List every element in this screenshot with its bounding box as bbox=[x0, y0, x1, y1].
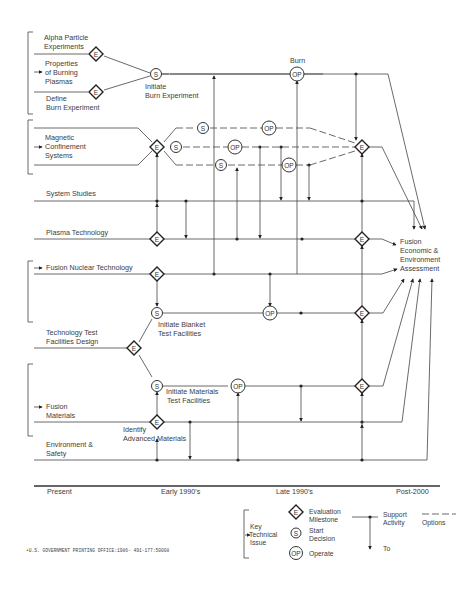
svg-text:E: E bbox=[155, 144, 160, 151]
svg-text:E: E bbox=[360, 144, 365, 151]
svg-text:OP: OP bbox=[264, 125, 273, 132]
timeline: Present Early 1990's Late 1990's Post-20… bbox=[34, 486, 440, 496]
start-decision-magnetic-upper: S bbox=[198, 123, 209, 134]
bracket-fusion-materials bbox=[28, 364, 42, 436]
svg-text:S: S bbox=[294, 530, 299, 537]
operate-blanket: OP bbox=[263, 306, 277, 320]
blanket-test-lines bbox=[163, 279, 404, 313]
svg-text:E: E bbox=[360, 383, 365, 390]
legend-support-activity-icon bbox=[352, 515, 378, 549]
track-label-ttf-1: Technology Test bbox=[46, 328, 97, 337]
svg-text:OP: OP bbox=[230, 144, 239, 151]
evaluation-milestone-fusion-nuclear: E bbox=[150, 267, 164, 281]
operate-magnetic-upper: OP bbox=[262, 121, 276, 135]
annotation-initiate-blanket-1: Initiate Blanket bbox=[158, 320, 205, 329]
bracket-fusion-nuclear bbox=[28, 261, 42, 322]
svg-text:OP: OP bbox=[284, 162, 293, 169]
operate-burn: OP bbox=[290, 67, 304, 81]
annotation-burn: Burn bbox=[290, 56, 305, 65]
legend-start-1: Start bbox=[309, 527, 323, 534]
track-label-burning-3: Plasmas bbox=[45, 77, 73, 86]
legend-key-3: Issue bbox=[250, 539, 266, 546]
legend-start-2: Decision bbox=[309, 535, 335, 542]
svg-text:OP: OP bbox=[265, 310, 274, 317]
track-label-env-2: Safety bbox=[46, 449, 67, 458]
legend-evaluation-milestone-icon: E bbox=[289, 505, 303, 519]
evaluation-milestone-ttf: E bbox=[127, 341, 141, 355]
legend-support-1: Support bbox=[383, 511, 407, 519]
annotation-fusion-assessment-2: Economic & bbox=[400, 246, 439, 255]
timeline-post-2000: Post-2000 bbox=[396, 487, 429, 496]
annotation-identify-1: Identify bbox=[123, 425, 147, 434]
svg-text:E: E bbox=[360, 236, 365, 243]
track-label-system-studies: System Studies bbox=[46, 189, 96, 198]
svg-text:S: S bbox=[155, 383, 160, 390]
svg-text:S: S bbox=[174, 144, 179, 151]
annotation-fusion-assessment-1: Fusion bbox=[400, 237, 422, 246]
legend-key-2: Technical bbox=[249, 531, 278, 538]
evaluation-milestone-fusion-materials: E bbox=[150, 415, 164, 429]
track-label-magnetic-3: Systems bbox=[45, 151, 73, 160]
svg-text:E: E bbox=[155, 236, 160, 243]
legend-operate-icon: OP bbox=[290, 547, 303, 560]
svg-text:E: E bbox=[132, 345, 137, 352]
svg-text:OP: OP bbox=[233, 383, 242, 390]
timeline-late-1990s: Late 1990's bbox=[276, 487, 313, 496]
legend-evaluation-1: Evaluation bbox=[309, 508, 341, 515]
evaluation-milestone-alpha: E bbox=[89, 47, 103, 61]
svg-text:E: E bbox=[155, 271, 160, 278]
track-label-alpha-2: Experiments bbox=[44, 42, 84, 51]
svg-text:OP: OP bbox=[291, 550, 300, 557]
start-decision-blanket: S bbox=[152, 308, 163, 319]
legend-operate: Operate bbox=[309, 550, 334, 558]
footer-printing-office: •U.S. GOVERNMENT PRINTING OFFICE:1986- 4… bbox=[26, 548, 170, 553]
system-studies-lines bbox=[34, 201, 414, 229]
bracket-burning-plasmas bbox=[28, 32, 42, 114]
start-decision-magnetic-middle: S bbox=[171, 142, 182, 153]
start-decision-magnetic-lower: S bbox=[216, 160, 227, 171]
env-safety-lines bbox=[34, 279, 432, 460]
svg-text:S: S bbox=[155, 310, 160, 317]
track-label-env-1: Environment & bbox=[46, 440, 93, 449]
legend-to: To bbox=[383, 545, 390, 552]
svg-text:S: S bbox=[201, 125, 206, 132]
legend-key-1: Key bbox=[250, 523, 262, 531]
track-label-ttf-2: Facilities Design bbox=[46, 337, 98, 346]
svg-text:E: E bbox=[94, 89, 99, 96]
evaluation-milestone-late-materials: E bbox=[355, 379, 369, 393]
legend-options: Options bbox=[422, 519, 446, 527]
burning-plasma-lines bbox=[34, 54, 425, 229]
legend-evaluation-2: Milestone bbox=[309, 516, 338, 523]
annotation-fusion-assessment-3: Environment bbox=[400, 255, 440, 264]
annotation-fusion-assessment-4: Assessment bbox=[400, 264, 439, 273]
fusion-program-diagram: Alpha Particle Experiments Properties of… bbox=[0, 0, 456, 598]
svg-text:E: E bbox=[94, 51, 99, 58]
start-decision-materials: S bbox=[152, 381, 163, 392]
svg-text:E: E bbox=[155, 419, 160, 426]
evaluation-milestone-late-blanket: E bbox=[355, 306, 369, 320]
annotation-initiate-burn-1: Initiate bbox=[145, 82, 166, 91]
plasma-technology-lines bbox=[34, 239, 396, 245]
operate-magnetic-middle: OP bbox=[228, 140, 242, 154]
svg-text:S: S bbox=[154, 71, 159, 78]
evaluation-milestone-plasma-tech: E bbox=[150, 232, 164, 246]
annotation-initiate-blanket-2: Test Facilities bbox=[158, 329, 202, 338]
evaluation-milestone-define: E bbox=[89, 85, 103, 99]
annotation-initiate-burn-2: Burn Experiment bbox=[145, 91, 199, 100]
svg-text:OP: OP bbox=[292, 71, 301, 78]
evaluation-milestone-late-plasma: E bbox=[355, 232, 369, 246]
track-label-magnetic-1: Magnetic bbox=[45, 133, 75, 142]
track-label-fusion-materials-1: Fusion bbox=[46, 402, 68, 411]
track-label-burning-2: of Burning bbox=[45, 68, 78, 77]
track-label-define-2: Burn Experiment bbox=[46, 103, 100, 112]
start-decision-burn: S bbox=[151, 69, 162, 80]
operate-materials: OP bbox=[231, 379, 245, 393]
track-label-fusion-nuclear: Fusion Nuclear Technology bbox=[46, 263, 133, 272]
evaluation-milestone-late-magnetic: E bbox=[355, 140, 369, 154]
timeline-early-1990s: Early 1990's bbox=[161, 487, 201, 496]
annotation-initiate-materials-2: Test Facilities bbox=[167, 396, 211, 405]
svg-text:E: E bbox=[294, 509, 299, 516]
evaluation-milestone-magnetic: E bbox=[150, 140, 164, 154]
annotation-initiate-materials-1: Initiate Materials bbox=[166, 387, 219, 396]
svg-text:S: S bbox=[219, 162, 224, 169]
